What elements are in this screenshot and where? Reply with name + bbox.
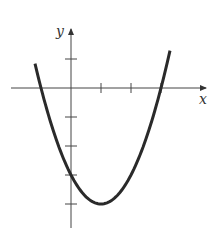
parabola-curve xyxy=(35,51,170,204)
x-axis-label: x xyxy=(199,91,207,107)
graph: y x xyxy=(0,0,222,247)
y-axis-label: y xyxy=(55,23,65,39)
